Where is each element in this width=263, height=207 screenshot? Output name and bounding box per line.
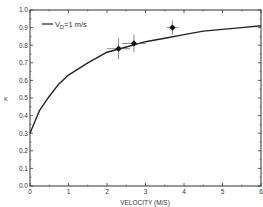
y-tick-label: 0.0: [19, 182, 28, 189]
y-axis-label: K: [4, 96, 8, 102]
y-tick-label: 0.8: [19, 42, 28, 49]
x-tick-label: 3: [144, 188, 148, 195]
data-point-marker: [115, 46, 121, 52]
plot-frame: [30, 10, 261, 186]
y-tick-label: 0.6: [19, 77, 28, 84]
plot-border: [30, 10, 261, 186]
y-tick-label: 1.0: [19, 6, 28, 13]
legend-label: VD=1 m/s: [55, 20, 87, 30]
y-tick-label: 0.9: [19, 24, 28, 31]
x-tick-label: 5: [221, 188, 225, 195]
x-tick-label: 0: [28, 188, 32, 195]
data-points: [107, 21, 178, 60]
x-tick-label: 6: [259, 188, 263, 195]
y-tick-label: 0.7: [19, 59, 28, 66]
y-tick-label: 0.2: [19, 147, 28, 154]
y-tick-label: 0.5: [19, 94, 28, 101]
legend: VD=1 m/s: [42, 20, 87, 30]
chart: 01234560.00.10.20.30.40.50.60.70.80.91.0…: [0, 0, 263, 207]
y-tick-label: 0.4: [19, 112, 28, 119]
model-curve: [30, 26, 261, 133]
x-axis-label: VELOCITY (M/S): [120, 199, 170, 207]
model-curve-path: [30, 26, 261, 133]
y-tick-label: 0.3: [19, 130, 28, 137]
x-tick-label: 1: [67, 188, 71, 195]
x-tick-label: 2: [105, 188, 109, 195]
y-tick-label: 0.1: [19, 165, 28, 172]
x-tick-label: 4: [182, 188, 186, 195]
chart-svg: 01234560.00.10.20.30.40.50.60.70.80.91.0…: [0, 0, 263, 207]
axis-ticks: 01234560.00.10.20.30.40.50.60.70.80.91.0: [19, 6, 263, 195]
data-point-marker: [169, 24, 175, 30]
